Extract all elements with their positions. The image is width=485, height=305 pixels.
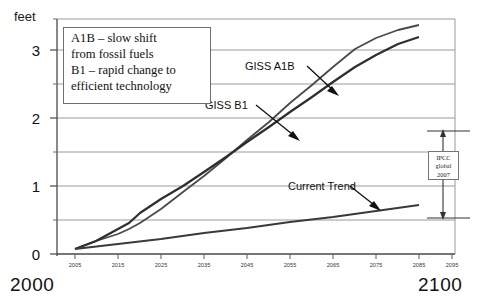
ipcc-range-arrow: [427, 129, 470, 220]
sea-level-rise-chart: feet 3 2 1 0 2005 2015 2025 2035 2045 20…: [0, 0, 485, 305]
series-line-current-trend: [75, 205, 419, 249]
x-axis: [57, 254, 455, 259]
series-line-giss-a1b: [75, 25, 419, 249]
gridlines: [57, 19, 455, 220]
series-line-giss-b1: [75, 37, 419, 249]
y-axis: [50, 19, 57, 256]
chart-canvas: [0, 0, 485, 305]
callout-arrow-current-trend: [350, 186, 381, 211]
